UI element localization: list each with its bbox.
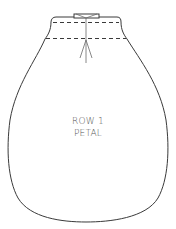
label-line-1: ROW 1: [0, 116, 176, 127]
petal-diagram: [0, 0, 176, 229]
label-line-2: PETAL: [0, 128, 176, 139]
